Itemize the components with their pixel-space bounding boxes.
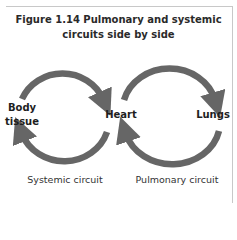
systemic-bottom-arrow [22, 132, 107, 161]
node-body-tissue: Body tissue [4, 101, 40, 129]
pulmonary-circuit-label: Pulmonary circuit [122, 174, 232, 185]
node-heart: Heart [101, 108, 141, 122]
pulmonary-top-arrow [124, 69, 215, 100]
systemic-circuit-label: Systemic circuit [10, 174, 120, 185]
node-lungs: Lungs [195, 108, 231, 122]
node-body-tissue-line-2: tissue [4, 115, 40, 129]
node-body-tissue-line-1: Body [4, 101, 40, 115]
systemic-top-arrow [22, 73, 103, 99]
pulmonary-bottom-arrow [126, 131, 219, 164]
